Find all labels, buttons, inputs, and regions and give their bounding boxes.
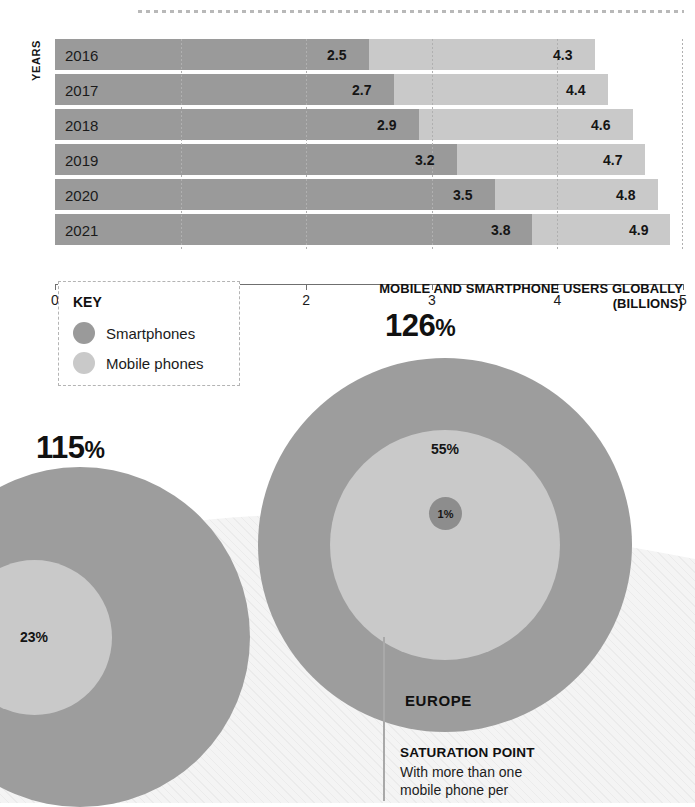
bar-year-label: 2020	[65, 186, 98, 203]
bar-row-2019[interactable]: 2019 3.2 4.7	[55, 144, 683, 175]
bar-value-mobile: 4.6	[591, 117, 610, 133]
chart-plot-area: 2016 2.5 4.3 2017 2.7 4.4 2018 2.9 4.6	[0, 36, 695, 276]
bar-value-mobile: 4.3	[553, 47, 572, 63]
circle-left-outer-percent: 115%	[36, 430, 104, 466]
callout-body-line1: With more than one	[400, 763, 660, 781]
legend-swatch-smartphones-icon	[73, 322, 95, 344]
bar-value-smartphones: 3.2	[415, 152, 434, 168]
bar-row-2020[interactable]: 2020 3.5 4.8	[55, 179, 683, 210]
bar-value-smartphones: 2.5	[327, 47, 346, 63]
bar-row-2021[interactable]: 2021 3.8 4.9	[55, 214, 683, 245]
top-dotted-divider	[136, 10, 684, 13]
bar-segment-smartphones	[55, 39, 369, 70]
chart-title-line1: MOBILE AND SMARTPHONE USERS GLOBALLY	[353, 281, 683, 296]
callout-vertical-rule	[383, 637, 385, 801]
bar-segment-smartphones	[55, 109, 419, 140]
bars-container: 2016 2.5 4.3 2017 2.7 4.4 2018 2.9 4.6	[55, 39, 683, 251]
circle-europe-inner-percent: 55%	[431, 441, 459, 457]
bar-row-2017[interactable]: 2017 2.7 4.4	[55, 74, 683, 105]
callout-body: With more than one mobile phone per	[400, 763, 660, 800]
bar-year-label: 2018	[65, 116, 98, 133]
legend-title: KEY	[73, 294, 102, 310]
gridline-3	[432, 39, 433, 251]
callout-body-line2: mobile phone per	[400, 781, 660, 799]
circle-left-outer-value: 115	[36, 430, 85, 465]
region-label-europe: EUROPE	[405, 692, 472, 709]
bar-year-label: 2017	[65, 81, 98, 98]
x-tick-2	[306, 284, 307, 290]
gridline-5	[682, 39, 683, 251]
callout-heading: SATURATION POINT	[400, 745, 535, 760]
legend-key-box: KEY Smartphones Mobile phones	[58, 281, 240, 386]
legend-label-mobile-phones: Mobile phones	[106, 355, 204, 372]
circle-europe-outer-value: 126	[385, 308, 435, 343]
bar-value-mobile: 4.4	[566, 82, 585, 98]
bar-value-smartphones: 3.8	[491, 222, 510, 238]
bar-value-smartphones: 3.5	[453, 187, 472, 203]
circle-left-inner-percent: 23%	[20, 629, 48, 645]
bar-year-label: 2016	[65, 46, 98, 63]
legend-swatch-mobile-phones-icon	[73, 352, 95, 374]
bar-row-2018[interactable]: 2018 2.9 4.6	[55, 109, 683, 140]
circle-left-outer-symbol: %	[85, 437, 105, 463]
x-tick-5	[683, 284, 684, 290]
legend-label-smartphones: Smartphones	[106, 325, 195, 342]
circle-europe-core-percent: 1%	[438, 508, 454, 520]
bar-value-mobile: 4.8	[616, 187, 635, 203]
x-tick-label-2: 2	[302, 292, 310, 308]
bar-value-mobile: 4.7	[603, 152, 622, 168]
legend-item-smartphones[interactable]: Smartphones	[73, 322, 195, 344]
bar-segment-smartphones	[55, 144, 457, 175]
x-tick-0	[55, 284, 56, 290]
gridline-1	[181, 39, 182, 251]
bar-year-label: 2019	[65, 151, 98, 168]
bar-row-2016[interactable]: 2016 2.5 4.3	[55, 39, 683, 70]
circle-europe-outer-symbol: %	[435, 315, 455, 341]
bar-segment-smartphones	[55, 214, 532, 245]
bar-value-mobile: 4.9	[629, 222, 648, 238]
bar-segment-smartphones	[55, 74, 394, 105]
bar-value-smartphones: 2.7	[352, 82, 371, 98]
legend-item-mobile-phones[interactable]: Mobile phones	[73, 352, 204, 374]
circle-europe-outer-percent: 126%	[385, 308, 455, 344]
circle-inner-europe	[330, 430, 560, 660]
bar-year-label: 2021	[65, 221, 98, 238]
bar-value-smartphones: 2.9	[377, 117, 396, 133]
bar-segment-smartphones	[55, 179, 495, 210]
gridline-2	[306, 39, 307, 251]
gridline-4	[557, 39, 558, 251]
